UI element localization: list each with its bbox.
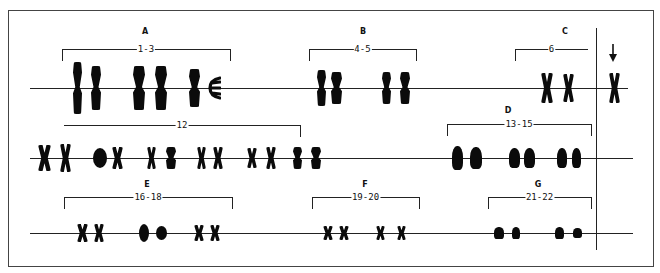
down-arrow-icon xyxy=(608,44,618,66)
group-a-letter: A xyxy=(142,27,148,36)
centromere-marker xyxy=(106,233,108,234)
centromere-marker xyxy=(169,88,171,89)
sex-chromosome-divider xyxy=(596,28,597,250)
group-g-letter: G xyxy=(535,180,542,189)
group-g-chromosome xyxy=(555,227,564,239)
centromere-marker xyxy=(208,158,210,159)
centromere-marker xyxy=(622,88,624,89)
centromere-marker xyxy=(169,233,171,234)
centromere-marker xyxy=(259,158,261,159)
group-g-chromosome xyxy=(494,227,504,239)
group-c-chromosome-row2 xyxy=(93,148,107,168)
centromere-marker xyxy=(344,88,346,89)
group-b-bracket-right xyxy=(416,49,417,61)
centromere-marker xyxy=(206,233,208,234)
group-d-letter: D xyxy=(505,106,512,115)
group-a-range-label: 1-3 xyxy=(137,44,155,54)
centromere-marker xyxy=(147,88,149,89)
group-d-chromosome xyxy=(452,146,463,170)
centromere-marker xyxy=(125,158,127,159)
centromere-marker xyxy=(53,158,55,159)
group-d-bracket-right xyxy=(591,124,592,136)
group-d-chromosome xyxy=(524,148,535,168)
centromere-marker xyxy=(576,88,578,89)
centromere-marker xyxy=(73,158,75,159)
centromere-marker xyxy=(412,88,414,89)
centromere-marker xyxy=(583,158,585,159)
group-c-12-range-label: 12 xyxy=(176,120,189,130)
centromere-marker xyxy=(569,158,571,159)
karyotype-diagram: A1-3B4-5C612D13-15E16-18F19-20G21-22 xyxy=(0,0,660,273)
group-b-range-label: 4-5 xyxy=(353,44,371,54)
centromere-marker xyxy=(465,158,467,159)
centromere-marker xyxy=(222,233,224,234)
centromere-marker xyxy=(103,88,105,89)
centromere-marker xyxy=(351,233,353,234)
group-c-12-bracket-right xyxy=(300,125,301,137)
centromere-marker xyxy=(323,158,325,159)
centromere-marker xyxy=(566,233,568,234)
group-g-bracket-left xyxy=(488,197,489,209)
centromere-marker xyxy=(506,233,508,234)
group-d-chromosome xyxy=(509,148,520,168)
group-c-letter: C xyxy=(562,27,568,36)
centromere-marker xyxy=(178,158,180,159)
group-c-bracket-left xyxy=(515,49,516,61)
centromere-marker xyxy=(584,233,586,234)
centromere-marker xyxy=(387,233,389,234)
group-d-bracket-left xyxy=(447,124,448,136)
group-f-bracket-right xyxy=(419,197,420,209)
centromere-marker xyxy=(151,233,153,234)
group-e-chromosome xyxy=(139,224,149,242)
group-f-letter: F xyxy=(362,180,367,189)
group-g-chromosome xyxy=(512,227,520,239)
group-g-chromosome xyxy=(573,228,582,238)
group-e-bracket-left xyxy=(64,197,65,209)
group-g-range-label: 21-22 xyxy=(525,192,554,202)
group-a-bracket-left xyxy=(62,49,63,61)
centromere-marker xyxy=(158,158,160,159)
group-e-bracket-right xyxy=(232,197,233,209)
centromere-marker xyxy=(555,88,557,89)
group-f-range-label: 19-20 xyxy=(351,192,380,202)
centromere-marker xyxy=(202,88,204,89)
group-c-range-label: 6 xyxy=(548,44,555,54)
group-e-range-label: 16-18 xyxy=(133,192,162,202)
group-e-chromosome xyxy=(156,226,167,240)
group-d-chromosome xyxy=(572,148,581,168)
centromere-marker xyxy=(304,158,306,159)
group-e-letter: E xyxy=(144,180,149,189)
centromere-marker xyxy=(484,158,486,159)
centromere-marker xyxy=(328,88,330,89)
centromere-marker xyxy=(335,233,337,234)
centromere-marker xyxy=(537,158,539,159)
group-f-bracket-left xyxy=(312,197,313,209)
centromere-marker xyxy=(408,233,410,234)
centromere-marker xyxy=(225,158,227,159)
centromere-marker xyxy=(90,233,92,234)
group-b-bracket-left xyxy=(309,49,310,61)
centromere-marker xyxy=(393,88,395,89)
centromere-marker xyxy=(84,88,86,89)
group-g-bracket-right xyxy=(591,197,592,209)
group-d-chromosome xyxy=(557,148,567,168)
group-a-chromosome xyxy=(207,74,221,102)
centromere-marker xyxy=(223,88,225,89)
centromere-marker xyxy=(278,158,280,159)
group-b-letter: B xyxy=(360,27,366,36)
group-d-range-label: 13-15 xyxy=(504,119,533,129)
centromere-marker xyxy=(109,158,111,159)
centromere-marker xyxy=(522,233,524,234)
group-d-chromosome xyxy=(470,147,482,169)
group-a-bracket-right xyxy=(230,49,231,61)
row-baseline xyxy=(30,233,633,234)
